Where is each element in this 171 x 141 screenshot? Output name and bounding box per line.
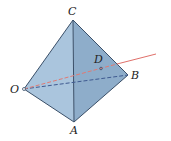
- label-a: A: [69, 124, 78, 137]
- label-o: O: [10, 83, 19, 96]
- tetrahedron-diagram: C O B A D: [0, 0, 171, 141]
- label-b: B: [130, 69, 139, 82]
- ray-outside: [117, 54, 156, 64]
- face-oca: [24, 20, 74, 122]
- point-o-marker: [23, 88, 26, 91]
- label-c: C: [68, 5, 77, 18]
- face-cba: [73, 20, 128, 122]
- label-d: D: [93, 53, 103, 66]
